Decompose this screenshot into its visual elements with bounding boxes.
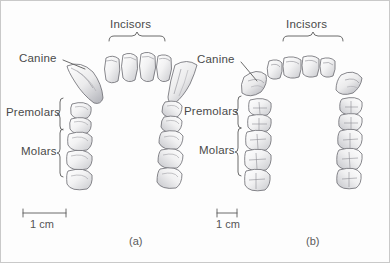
arch-a-canine-left [67, 64, 103, 103]
label-incisors-b: Incisors [286, 19, 327, 31]
arch-b-canine-left [241, 71, 266, 95]
arch-b [241, 56, 362, 191]
arch-b-canine-right [336, 72, 362, 94]
bracket-incisors-a [109, 32, 165, 41]
dental-arch-illustration [1, 1, 390, 263]
bracket-incisors-b [283, 32, 343, 41]
arch-a-canine-right [168, 62, 197, 104]
scale-label-b: 1 cm [216, 218, 240, 230]
label-molars-a: Molars [21, 146, 57, 158]
caption-b: (b) [306, 235, 319, 247]
arch-b-right-cheek-teeth [337, 98, 362, 189]
scale-label-a: 1 cm [30, 218, 54, 230]
bracket-molars-b [235, 128, 241, 176]
arch-a [67, 52, 197, 189]
scale-bar-a [23, 209, 66, 217]
arch-a-left-cheek-teeth [67, 103, 92, 190]
arch-b-incisors [267, 56, 335, 79]
arch-a-incisors [105, 52, 172, 82]
label-premolars-b: Premolars [184, 106, 238, 118]
bracket-molars-a [57, 129, 63, 177]
caption-a: (a) [129, 235, 142, 247]
figure-panel: Incisors Canine Premolars Molars 1 cm (a… [0, 0, 390, 263]
label-incisors-a: Incisors [110, 19, 151, 31]
label-canine-b: Canine [197, 54, 235, 66]
label-premolars-a: Premolars [6, 107, 60, 119]
arch-a-right-cheek-teeth [157, 101, 183, 188]
arch-b-left-cheek-teeth [245, 99, 271, 191]
label-canine-a: Canine [19, 53, 57, 65]
scale-bar-b [217, 209, 237, 217]
label-molars-b: Molars [199, 145, 235, 157]
